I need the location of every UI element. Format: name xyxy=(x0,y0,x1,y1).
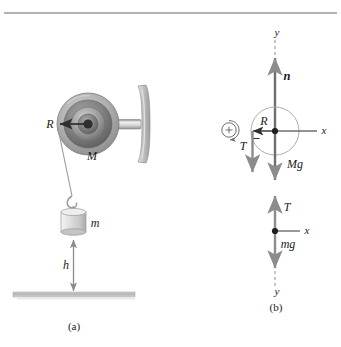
caption-a: (a) xyxy=(68,320,81,333)
figure-canvas: R M m h xyxy=(0,0,341,347)
ground xyxy=(13,292,135,300)
radius-label-b: R xyxy=(259,114,268,128)
mass-weight-label: mg xyxy=(281,237,296,251)
mass-tension-label: T xyxy=(284,200,292,214)
x-axis-label-mass: x xyxy=(304,224,310,236)
pulley-weight-label: Mg xyxy=(286,157,303,171)
panel-b-pulley-fbd: y n x Mg R T xyxy=(222,26,327,180)
normal-force-label: n xyxy=(284,69,291,83)
pulley-mass-label: M xyxy=(86,149,98,163)
caption-b: (b) xyxy=(270,301,283,314)
y-axis-label-pulley: y xyxy=(274,26,280,38)
rotation-sense-symbol xyxy=(222,121,239,140)
pulley-tension-label: T xyxy=(240,139,248,153)
panel-b-mass-fbd: T x mg y (b) xyxy=(270,196,310,314)
pulley-center-dot xyxy=(272,128,278,134)
hanging-weight xyxy=(61,208,86,235)
height-label: h xyxy=(63,258,69,272)
y-axis-label-mass: y xyxy=(274,285,280,297)
radius-label-a: R xyxy=(45,117,54,131)
hanging-mass-label: m xyxy=(91,216,100,230)
panel-a: R M m h xyxy=(13,85,150,333)
physics-figure: R M m h xyxy=(0,0,341,347)
x-axis-label-pulley: x xyxy=(321,124,327,136)
mass-center-dot xyxy=(272,228,278,234)
